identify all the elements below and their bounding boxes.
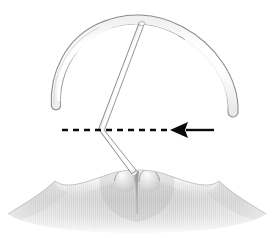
stem-arch-junction	[139, 22, 145, 26]
uterine-fundus-tissue	[0, 165, 274, 238]
iud-vertical-stem	[99, 22, 145, 174]
tissue-texture-group	[0, 165, 274, 238]
medical-illustration-figure: Intrauterine device positioned at the ut…	[0, 0, 274, 238]
iud-arched-arm	[51, 15, 238, 117]
arrow-head-icon	[170, 122, 188, 138]
annotation-layer	[62, 122, 214, 138]
illustration-canvas	[0, 0, 274, 238]
